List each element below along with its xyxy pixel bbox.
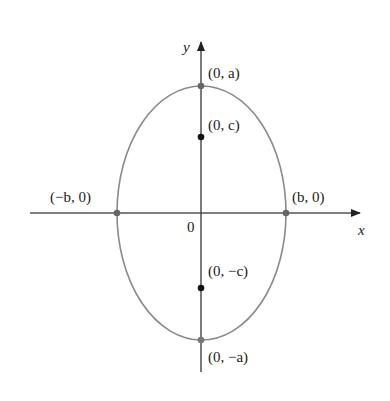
focus-bottom-label: (0, −c) [208, 263, 248, 280]
origin-label: 0 [187, 219, 195, 235]
vertex-bottom-label: (0, −a) [208, 349, 248, 366]
y-axis-label: y [181, 39, 190, 55]
focus-bottom-point [198, 285, 205, 292]
vertex-top-label: (0, a) [208, 65, 240, 82]
focus-top-label: (0, c) [208, 117, 240, 134]
vertex-top-point [198, 83, 205, 90]
ellipse-diagram: y x 0 (0, a) (0, c) (−b, 0) (b, 0) (0, −… [0, 0, 390, 401]
vertex-left-point [114, 210, 121, 217]
focus-top-point [198, 134, 205, 141]
vertex-right-point [283, 210, 290, 217]
vertex-left-label: (−b, 0) [50, 189, 91, 206]
x-axis-label: x [357, 222, 365, 238]
vertex-bottom-point [198, 337, 205, 344]
vertex-right-label: (b, 0) [292, 189, 325, 206]
